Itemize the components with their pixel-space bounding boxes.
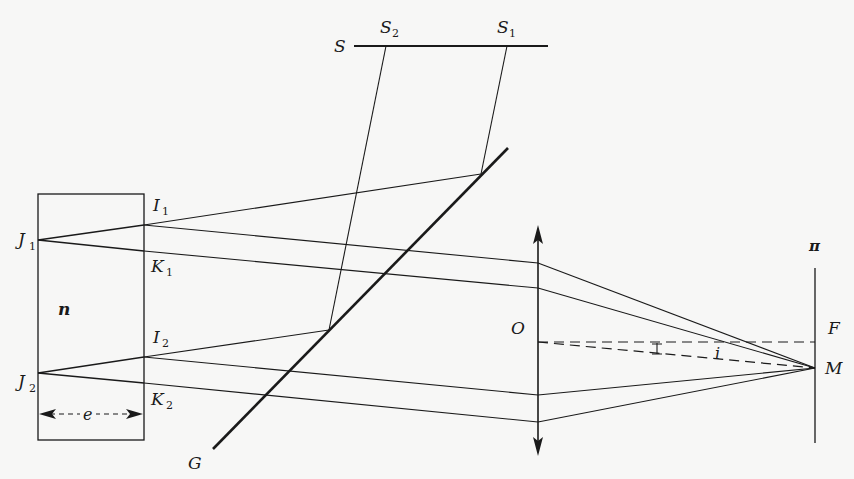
- ray-g-to-i1: [144, 174, 481, 225]
- label-k1: K: [150, 256, 165, 276]
- label-j2-sub: 2: [29, 382, 36, 395]
- label-i1: I: [152, 195, 160, 215]
- label-i2-sub: 2: [162, 337, 169, 350]
- line-om-dashed: [538, 342, 815, 368]
- label-k2: K: [150, 389, 165, 409]
- label-s: S: [334, 36, 346, 56]
- ray-j2-to-k2: [38, 373, 144, 383]
- label-o: O: [511, 318, 525, 338]
- ray-lens-to-m-3: [538, 368, 815, 395]
- label-j1: J: [15, 229, 26, 249]
- label-i1-sub: 1: [162, 205, 169, 218]
- glass-plate: [38, 194, 144, 440]
- label-pi: π: [808, 237, 821, 255]
- ray-lens-to-m-1: [538, 263, 815, 368]
- interferometer-diagram: S S 2 S 1 G n e J 1 J 2 I 1 I 2 K 1 K 2 …: [0, 0, 854, 479]
- label-s2-sub: 2: [392, 27, 399, 40]
- label-k2-sub: 2: [166, 399, 173, 412]
- label-i2: I: [152, 327, 160, 347]
- label-g: G: [188, 453, 202, 473]
- label-f: F: [827, 318, 841, 338]
- thickness-right-arrow-icon: [126, 409, 143, 419]
- ray-j1-to-k1: [38, 240, 144, 251]
- ray-lens-to-m-2: [538, 288, 815, 368]
- label-i-angle: i: [715, 344, 720, 363]
- label-s1: S: [497, 17, 509, 37]
- label-k1-sub: 1: [166, 266, 173, 279]
- label-n: n: [58, 299, 70, 319]
- ray-i1-to-j1: [38, 225, 144, 240]
- label-s1-sub: 1: [509, 27, 516, 40]
- label-j2: J: [15, 371, 26, 391]
- ray-lens-to-m-4: [538, 368, 815, 422]
- ray-i1-to-lens: [144, 225, 538, 263]
- ray-k1-to-lens: [144, 251, 538, 288]
- label-j1-sub: 1: [29, 240, 36, 253]
- ray-g-to-i2: [144, 330, 329, 357]
- label-e: e: [83, 405, 92, 424]
- label-m: M: [824, 358, 843, 378]
- ray-s2-to-g: [329, 46, 386, 330]
- ray-i2-to-j2: [38, 357, 144, 373]
- separator-g: [213, 148, 508, 449]
- label-s2: S: [380, 17, 392, 37]
